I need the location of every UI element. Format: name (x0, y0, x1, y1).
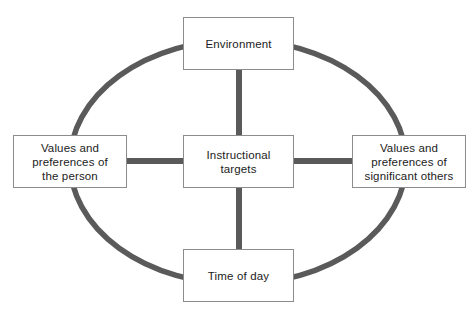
node-time-of-day-label: Time of day (208, 269, 269, 283)
connector-center-to-environment (236, 66, 242, 139)
node-values-preferences-person-label: Values and preferences of the person (32, 141, 108, 183)
connector-center-to-values-person (123, 158, 187, 164)
node-values-preferences-significant-others-label: Values and preferences of significant ot… (365, 141, 454, 183)
node-values-preferences-person: Values and preferences of the person (13, 135, 127, 188)
diagram-canvas: Environment Values and preferences of th… (0, 0, 475, 316)
connector-center-to-time-of-day (236, 184, 242, 253)
node-time-of-day: Time of day (183, 249, 294, 302)
node-environment-label: Environment (205, 37, 271, 51)
connector-center-to-values-others (290, 158, 356, 164)
node-environment: Environment (183, 17, 294, 70)
node-instructional-targets: Instructional targets (183, 135, 294, 188)
node-values-preferences-significant-others: Values and preferences of significant ot… (352, 135, 466, 188)
node-instructional-targets-label: Instructional targets (207, 148, 271, 176)
